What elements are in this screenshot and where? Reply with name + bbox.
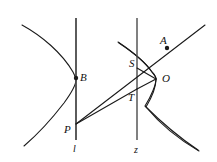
- segment-t-o: [137, 79, 156, 89]
- diagram-canvas: [0, 0, 217, 162]
- ray-p-s-a: [76, 25, 205, 124]
- geometry-figure: A B O P S T l z: [0, 0, 217, 162]
- label-line-z: z: [134, 145, 138, 155]
- label-A: A: [160, 35, 167, 46]
- label-S: S: [129, 58, 135, 69]
- label-B: B: [80, 72, 87, 83]
- label-line-l: l: [73, 144, 76, 154]
- point-dot-a: [165, 46, 169, 50]
- label-P: P: [64, 124, 71, 135]
- label-T: T: [128, 92, 134, 103]
- label-O: O: [162, 73, 170, 84]
- point-dot-b: [74, 76, 78, 80]
